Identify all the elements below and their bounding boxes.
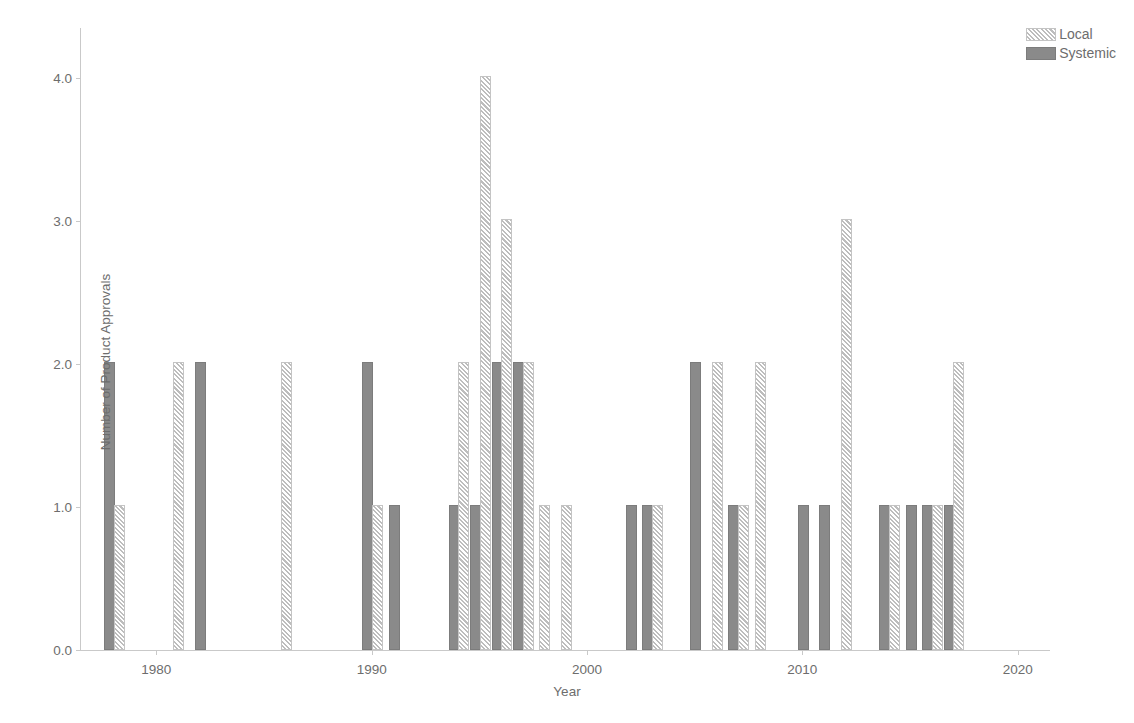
y-tick-label: 1.0	[53, 500, 72, 515]
y-tick-mark	[76, 507, 81, 508]
legend-swatch-solid-icon	[1026, 47, 1056, 60]
bar-local	[652, 505, 663, 650]
x-tick-label: 2000	[572, 662, 602, 677]
y-tick-label: 2.0	[53, 357, 72, 372]
chart-legend: Local Systemic	[1026, 26, 1116, 61]
legend-item-local: Local	[1026, 26, 1116, 42]
bar-local	[173, 362, 184, 650]
chart-figure: 0.01.02.03.04.0 19801990200020102020 Num…	[0, 0, 1134, 723]
bar-local	[281, 362, 292, 650]
bar-local	[841, 219, 852, 650]
bar-systemic	[626, 505, 637, 650]
x-tick-mark	[372, 650, 373, 655]
plot-area: 0.01.02.03.04.0 19801990200020102020	[80, 28, 1050, 651]
bar-systemic	[389, 505, 400, 650]
legend-item-systemic: Systemic	[1026, 45, 1116, 61]
bar-local	[561, 505, 572, 650]
bar-local	[953, 362, 964, 650]
y-tick-mark	[76, 78, 81, 79]
x-axis-title: Year	[0, 684, 1134, 699]
y-tick-label: 0.0	[53, 643, 72, 658]
y-tick-mark	[76, 364, 81, 365]
y-tick-label: 4.0	[53, 71, 72, 86]
bar-local	[889, 505, 900, 650]
bar-local	[480, 76, 491, 650]
bar-local	[539, 505, 550, 650]
bars-layer	[81, 28, 1050, 650]
bar-local	[114, 505, 125, 650]
y-tick-mark	[76, 650, 81, 651]
legend-label-systemic: Systemic	[1056, 45, 1116, 61]
legend-swatch-hatched-icon	[1026, 28, 1056, 41]
bar-local	[755, 362, 766, 650]
bar-local	[932, 505, 943, 650]
bar-systemic	[798, 505, 809, 650]
x-tick-label: 2010	[787, 662, 817, 677]
bar-local	[372, 505, 383, 650]
bar-systemic	[690, 362, 701, 650]
bar-local	[523, 362, 534, 650]
legend-label-local: Local	[1056, 26, 1092, 42]
bar-systemic	[819, 505, 830, 650]
x-tick-mark	[1018, 650, 1019, 655]
bar-local	[501, 219, 512, 650]
x-tick-mark	[156, 650, 157, 655]
x-tick-mark	[587, 650, 588, 655]
x-tick-label: 2020	[1003, 662, 1033, 677]
x-tick-label: 1980	[141, 662, 171, 677]
x-tick-label: 1990	[357, 662, 387, 677]
y-axis-title: Number of Product Approvals	[98, 273, 113, 449]
x-tick-mark	[802, 650, 803, 655]
y-tick-mark	[76, 221, 81, 222]
bar-systemic	[195, 362, 206, 650]
bar-local	[712, 362, 723, 650]
y-tick-label: 3.0	[53, 214, 72, 229]
bar-local	[458, 362, 469, 650]
bar-local	[738, 505, 749, 650]
bar-systemic	[906, 505, 917, 650]
